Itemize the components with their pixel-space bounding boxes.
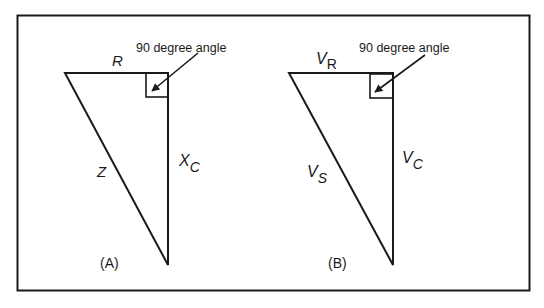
panel-caption-b: (B) [328, 255, 347, 271]
angle-annotation: 90 degree angle [136, 41, 226, 55]
panel-caption-a: (A) [100, 255, 119, 271]
voltage-triangle [289, 73, 393, 265]
side-label-vr: VR [316, 50, 337, 72]
side-label-r: R [112, 52, 123, 69]
right-angle-marker [146, 73, 168, 97]
side-label-vs: VS [307, 163, 328, 186]
right-angle-marker [370, 74, 393, 98]
panel-b: 90 degree angle VR VS VC (B) [289, 41, 449, 271]
impedance-triangle [65, 73, 168, 265]
side-label-xc: XC [178, 152, 201, 175]
panel-a: 90 degree angle R Z XC (A) [65, 41, 226, 271]
side-label-z: Z [96, 163, 107, 180]
angle-annotation: 90 degree angle [359, 41, 449, 55]
side-label-vc: VC [402, 149, 424, 172]
figure-frame [18, 16, 530, 291]
impedance-voltage-triangles-diagram: 90 degree angle R Z XC (A) 90 degree ang… [0, 0, 544, 308]
